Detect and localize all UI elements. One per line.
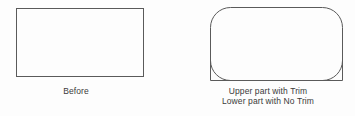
- before-rectangle-shape: [17, 9, 144, 77]
- before-caption-line-1: Before: [16, 86, 136, 96]
- after-outline-shape: [211, 8, 343, 81]
- after-caption-line-2: Lower part with No Trim: [198, 96, 338, 106]
- before-caption: Before: [16, 86, 136, 96]
- bottom-right-fillet-arc: [323, 61, 343, 81]
- after-caption: Upper part with Trim Lower part with No …: [198, 86, 338, 106]
- after-caption-line-1: Upper part with Trim: [198, 86, 338, 96]
- figure-canvas: Before Upper part with Trim Lower part w…: [0, 0, 355, 116]
- bottom-left-fillet-arc: [211, 61, 231, 81]
